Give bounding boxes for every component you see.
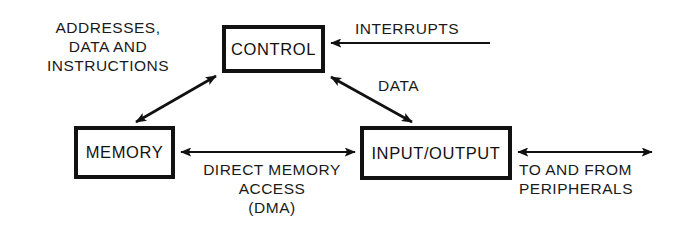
- block-diagram: CONTROL MEMORY INPUT/OUTPUT ADDRESSES, D…: [0, 0, 682, 235]
- node-memory[interactable]: MEMORY: [74, 126, 175, 179]
- label-direct-memory-access: DIRECT MEMORY ACCESS (DMA): [182, 160, 362, 217]
- label-to-and-from-peripherals: TO AND FROM PERIPHERALS: [519, 160, 674, 198]
- label-interrupts: INTERRUPTS: [355, 19, 515, 38]
- connector-control-memory: [136, 76, 216, 122]
- node-control-label: CONTROL: [231, 40, 316, 59]
- node-input-output-label: INPUT/OUTPUT: [371, 144, 500, 163]
- label-addresses-data-instructions: ADDRESSES, DATA AND INSTRUCTIONS: [8, 18, 208, 75]
- node-input-output[interactable]: INPUT/OUTPUT: [360, 126, 512, 180]
- node-control[interactable]: CONTROL: [222, 25, 325, 73]
- label-data: DATA: [378, 76, 468, 95]
- node-memory-label: MEMORY: [86, 143, 164, 162]
